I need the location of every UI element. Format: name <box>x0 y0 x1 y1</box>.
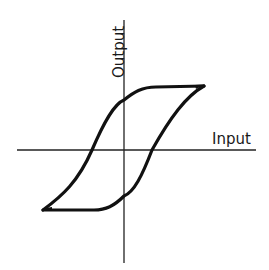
x-axis-label: Input <box>212 132 251 147</box>
hysteresis-diagram: Output Input <box>0 0 269 270</box>
y-axis-label: Output <box>112 26 127 78</box>
